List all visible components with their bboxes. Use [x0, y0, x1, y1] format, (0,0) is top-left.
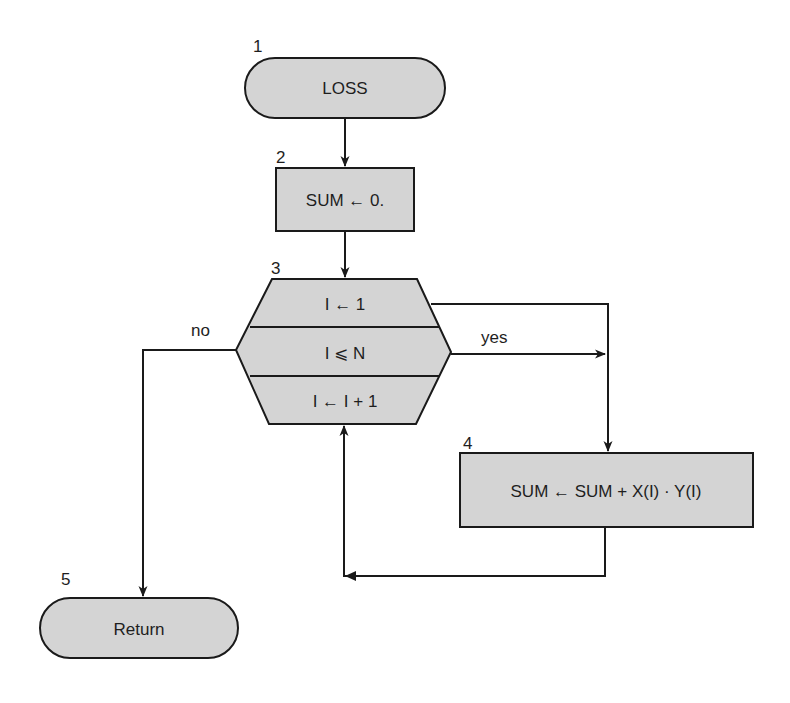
- flowchart-canvas: 1 LOSS 2 SUM ← 0. 3 I ← 1 I ⩽ N I ← I + …: [0, 0, 790, 703]
- label-yes: yes: [481, 328, 507, 347]
- label-no: no: [191, 321, 210, 340]
- edge-no: [143, 350, 236, 596]
- node-text-accumulate: SUM ← SUM + X(I) · Y(I): [511, 482, 702, 501]
- node-number-5: 5: [61, 570, 70, 589]
- loop-increment-text: I ← I + 1: [313, 392, 378, 411]
- loopback-direction-arrow: [345, 571, 356, 581]
- node-5-return: 5 Return: [40, 570, 238, 658]
- node-text-loss: LOSS: [322, 79, 367, 98]
- node-4-accumulate: 4 SUM ← SUM + X(I) · Y(I): [460, 434, 753, 527]
- loop-test-text: I ⩽ N: [325, 344, 366, 363]
- node-text-sum-init: SUM ← 0.: [306, 191, 384, 210]
- node-number-1: 1: [253, 37, 262, 56]
- loop-init-text: I ← 1: [325, 295, 366, 314]
- node-text-return: Return: [113, 620, 164, 639]
- node-number-2: 2: [276, 148, 285, 167]
- node-number-4: 4: [463, 434, 472, 453]
- node-1-loss: 1 LOSS: [245, 37, 445, 118]
- node-3-loop: 3 I ← 1 I ⩽ N I ← I + 1: [236, 259, 451, 424]
- edge-init-to-4: [431, 304, 608, 451]
- node-number-3: 3: [271, 259, 280, 278]
